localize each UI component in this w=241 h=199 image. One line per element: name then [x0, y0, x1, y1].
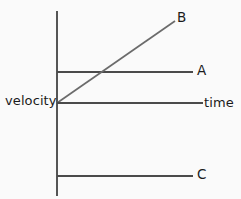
line-c-label: C	[197, 168, 206, 182]
y-axis-label-velocity: velocity	[5, 94, 57, 107]
velocity-time-figure: velocity time A B C	[0, 0, 241, 199]
line-b	[57, 21, 175, 103]
line-b-label: B	[177, 11, 186, 25]
x-axis-label-time: time	[204, 96, 234, 109]
line-a-label: A	[197, 64, 206, 78]
